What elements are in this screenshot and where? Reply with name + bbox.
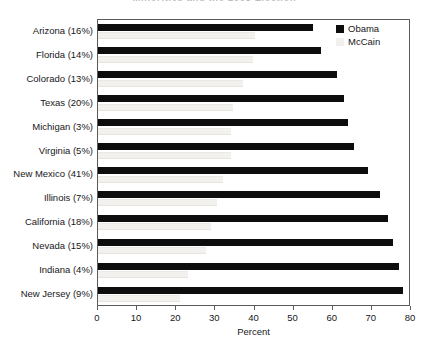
y-axis-tick-label: Virginia (5%) bbox=[39, 146, 93, 156]
legend-swatch-mccain bbox=[336, 38, 344, 46]
bar-obama bbox=[98, 287, 403, 294]
x-axis-tick bbox=[410, 306, 411, 310]
x-axis-tick-label: 10 bbox=[121, 312, 151, 323]
bar-obama bbox=[98, 191, 380, 198]
x-axis-tick bbox=[214, 306, 215, 310]
x-axis-tick-label: 20 bbox=[160, 312, 190, 323]
bar-mccain bbox=[98, 128, 231, 135]
x-axis-tick-label: 30 bbox=[199, 312, 229, 323]
bar-mccain bbox=[98, 56, 253, 63]
bar-obama bbox=[98, 239, 393, 246]
y-axis-tick-label: California (18%) bbox=[25, 217, 93, 227]
chart-legend: Obama McCain bbox=[336, 22, 380, 48]
x-axis-tick-label: 40 bbox=[239, 312, 269, 323]
x-axis-tick bbox=[371, 306, 372, 310]
bar-mccain bbox=[98, 247, 206, 254]
x-axis-title: Percent bbox=[97, 326, 410, 337]
bar-group bbox=[98, 164, 409, 188]
x-axis-tick bbox=[136, 306, 137, 310]
y-axis-tick-label: New Mexico (41%) bbox=[13, 169, 93, 179]
y-axis-tick-label: Indiana (4%) bbox=[39, 265, 93, 275]
bar-mccain bbox=[98, 176, 223, 183]
bar-obama bbox=[98, 24, 313, 31]
chart-title: Minorities and the 2008 Election bbox=[0, 0, 429, 3]
x-axis-tick bbox=[254, 306, 255, 310]
legend-swatch-obama bbox=[336, 25, 344, 33]
bar-obama bbox=[98, 167, 368, 174]
y-axis-tick-label: Michigan (3%) bbox=[32, 122, 93, 132]
bar-obama bbox=[98, 215, 388, 222]
bar-obama bbox=[98, 263, 399, 270]
x-axis-tick bbox=[293, 306, 294, 310]
bar-mccain bbox=[98, 32, 255, 39]
plot-area bbox=[97, 19, 410, 306]
x-axis-tick-label: 70 bbox=[356, 312, 386, 323]
x-axis-tick-label: 80 bbox=[395, 312, 425, 323]
y-axis-tick-label: New Jersey (9%) bbox=[21, 289, 93, 299]
x-axis-tick-label: 60 bbox=[317, 312, 347, 323]
bar-mccain bbox=[98, 199, 217, 206]
x-axis-tick-label: 0 bbox=[82, 312, 112, 323]
bar-group bbox=[98, 116, 409, 140]
bar-group bbox=[98, 140, 409, 164]
bar-group bbox=[98, 92, 409, 116]
bar-group bbox=[98, 187, 409, 211]
bar-obama bbox=[98, 95, 344, 102]
bar-group bbox=[98, 211, 409, 235]
bar-mccain bbox=[98, 80, 243, 87]
bar-mccain bbox=[98, 152, 231, 159]
bar-group bbox=[98, 259, 409, 283]
bar-obama bbox=[98, 47, 321, 54]
bar-group bbox=[98, 68, 409, 92]
bar-obama bbox=[98, 71, 337, 78]
y-axis-tick-label: Illinois (7%) bbox=[44, 193, 93, 203]
bar-group bbox=[98, 283, 409, 306]
legend-item-mccain: McCain bbox=[336, 35, 380, 48]
y-axis-tick-label: Florida (14%) bbox=[36, 50, 93, 60]
bar-mccain bbox=[98, 104, 233, 111]
bar-obama bbox=[98, 143, 354, 150]
legend-label-obama: Obama bbox=[348, 22, 379, 35]
x-axis-tick bbox=[332, 306, 333, 310]
bar-group bbox=[98, 235, 409, 259]
bar-obama bbox=[98, 119, 348, 126]
y-axis-tick-label: Colorado (13%) bbox=[26, 74, 93, 84]
x-axis-tick bbox=[175, 306, 176, 310]
bar-mccain bbox=[98, 295, 180, 302]
legend-item-obama: Obama bbox=[336, 22, 380, 35]
y-axis-tick-label: Arizona (16%) bbox=[33, 26, 93, 36]
y-axis-tick-label: Texas (20%) bbox=[40, 98, 93, 108]
legend-label-mccain: McCain bbox=[348, 35, 380, 48]
x-axis-tick-label: 50 bbox=[278, 312, 308, 323]
y-axis-tick-label: Nevada (15%) bbox=[32, 241, 93, 251]
bar-mccain bbox=[98, 271, 188, 278]
bar-mccain bbox=[98, 223, 211, 230]
x-axis-tick bbox=[97, 306, 98, 310]
